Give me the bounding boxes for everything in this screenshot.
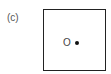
panel-label: (c): [7, 12, 19, 24]
square-frame: O: [43, 9, 106, 71]
point-dot-icon: [75, 41, 79, 45]
point-label: O: [63, 37, 71, 48]
